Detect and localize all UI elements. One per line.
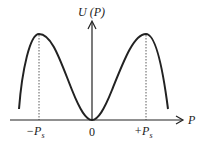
x-axis-label: P [188,114,195,126]
y-axis-label: U (P) [78,6,105,18]
tick-minus-ps-sub: s [41,131,44,140]
tick-plus-ps-sub: s [149,131,152,140]
tick-plus-ps-text: +P [134,124,149,138]
tick-minus-ps: −Ps [26,125,45,140]
tick-plus-ps: +Ps [134,125,153,140]
tick-minus-ps-text: −P [26,124,41,138]
double-well-potential-diagram: U (P) P −Ps 0 +Ps [0,0,206,146]
tick-origin: 0 [89,126,95,138]
